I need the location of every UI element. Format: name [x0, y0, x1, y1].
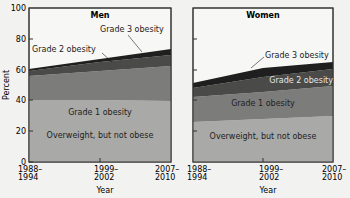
women-label-grade1: Grade 1 obesity [231, 99, 295, 108]
ytick-80: 80 [16, 35, 26, 44]
women-x-axis-label: Year [259, 186, 278, 195]
men-label-grade3: Grade 3 obesity [100, 25, 164, 34]
men-title: Men [90, 11, 109, 20]
women-label-overweight: Overweight, but not obese [210, 132, 317, 141]
y-axis: 0 20 40 60 80 100 Percent [2, 4, 33, 167]
ytick-60: 60 [16, 66, 26, 75]
women-label-grade3: Grade 3 obesity [265, 51, 329, 60]
men-x-axis-label: Year [96, 186, 115, 195]
men-label-grade1: Grade 1 obesity [68, 108, 132, 117]
men-label-grade2: Grade 2 obesity [32, 45, 96, 54]
women-panel: Women Grade 3 obesity Grade 2 obesity Gr… [187, 8, 346, 195]
women-xtick-3b: 2010 [322, 173, 342, 182]
men-panel: Men Grade 1 obesity Overweight, but not … [2, 4, 179, 195]
men-xtick-2b: 2002 [94, 173, 114, 182]
men-label-overweight: Overweight, but not obese [47, 131, 154, 140]
women-title: Women [246, 11, 280, 20]
women-xtick-1b: 1994 [187, 173, 207, 182]
men-xtick-3b: 2010 [155, 173, 175, 182]
ytick-40: 40 [16, 96, 26, 105]
chart: Men Grade 1 obesity Overweight, but not … [0, 0, 350, 198]
y-axis-label: Percent [2, 70, 11, 100]
women-label-grade2: Grade 2 obesity [269, 76, 333, 85]
ytick-20: 20 [16, 127, 26, 136]
women-xtick-2b: 2002 [259, 173, 279, 182]
ytick-100: 100 [11, 4, 26, 13]
men-xtick-1b: 1994 [18, 173, 38, 182]
